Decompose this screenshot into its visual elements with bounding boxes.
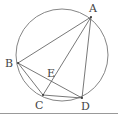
point-A: [90, 16, 92, 18]
label-C: C: [35, 99, 43, 112]
point-B: [17, 62, 19, 64]
label-B: B: [5, 57, 13, 70]
segment-BC: [18, 63, 43, 95]
point-D: [81, 97, 83, 99]
point-C: [42, 94, 44, 96]
label-D: D: [81, 100, 90, 113]
segment-CD: [43, 95, 82, 98]
label-E: E: [47, 67, 55, 80]
segment-AB: [18, 17, 91, 63]
geometry-diagram: A B C D E: [0, 0, 118, 119]
label-A: A: [88, 2, 98, 15]
